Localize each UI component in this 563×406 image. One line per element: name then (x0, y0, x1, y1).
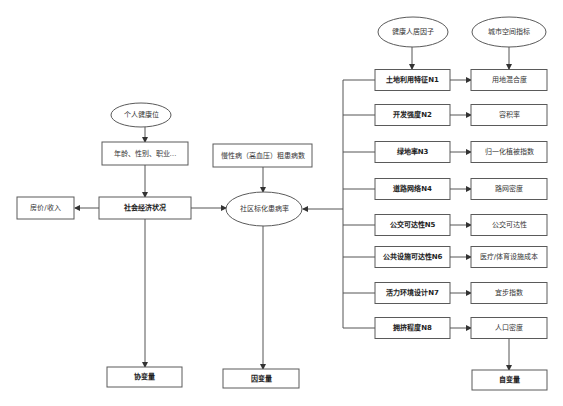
health-factor-label: 健康人居因子 (392, 27, 434, 36)
socioeconomic-node: 社会经济状况 (99, 197, 191, 219)
indicator-label-n6: 医疗/体育设施成本 (480, 252, 538, 261)
dependent-variable-label: 因变量 (251, 374, 272, 383)
indicator-label-n3: 归一化植被指数 (485, 147, 534, 156)
factor-row-n4: 道路网络N4路网密度 (343, 179, 547, 200)
indicator-label-n7: 宜步指数 (495, 288, 523, 297)
house-price-income-node: 房价/收入 (17, 197, 74, 219)
factor-rows: 土地利用特征N1用地混合度开发强度N2容积率绿地率N3归一化植被指数道路网络N4… (343, 70, 547, 339)
indicator-label-n1: 用地混合度 (492, 75, 527, 84)
house-price-income-label: 房价/收入 (30, 203, 60, 212)
indicator-label-n2: 容积率 (499, 110, 520, 119)
health-factor-header-node: 健康人居因子 (378, 17, 448, 47)
independent-variable-node: 自变量 (472, 370, 547, 390)
standardized-prevalence-node: 社区标化患病率 (226, 192, 302, 226)
factor-row-n6: 公共设施可达性N6医疗/体育设施成本 (343, 247, 547, 268)
covariate-label: 协变量 (134, 372, 155, 381)
factor-label-n3: 绿地率N3 (397, 147, 429, 156)
personal-health-label: 个人健康位 (124, 110, 159, 119)
socioeconomic-label: 社会经济状况 (123, 203, 166, 212)
factor-label-n2: 开发强度N2 (393, 110, 432, 119)
factor-label-n5: 公交可达性N5 (390, 220, 436, 229)
chronic-disease-node: 慢性病（高血压）粗患病数 (213, 144, 312, 167)
demographics-label: 年龄、性别、职业… (114, 149, 177, 158)
factor-label-n8: 拥挤程度N8 (393, 323, 432, 332)
factor-label-n6: 公共设施可达性N6 (383, 252, 443, 261)
factor-row-n3: 绿地率N3归一化植被指数 (343, 142, 547, 163)
standardized-prevalence-label: 社区标化患病率 (240, 204, 289, 213)
chronic-disease-label: 慢性病（高血压）粗患病数 (221, 151, 305, 160)
urban-index-label: 城市空间指标 (488, 27, 530, 36)
factor-row-n5: 公交可达性N5公交可达性 (343, 215, 547, 236)
factor-label-n1: 土地利用特征N1 (386, 75, 439, 84)
factor-label-n7: 活力环境设计N7 (386, 288, 439, 297)
factor-row-n2: 开发强度N2容积率 (343, 105, 547, 126)
indicator-label-n8: 人口密度 (495, 323, 523, 332)
independent-variable-label: 自变量 (499, 375, 520, 384)
personal-health-node: 个人健康位 (111, 103, 171, 127)
dependent-variable-node: 因变量 (223, 369, 299, 388)
indicator-label-n5: 公交可达性 (492, 220, 527, 229)
factor-label-n4: 道路网络N4 (393, 184, 432, 193)
demographics-node: 年龄、性别、职业… (102, 142, 188, 165)
factor-row-n1: 土地利用特征N1用地混合度 (343, 70, 547, 91)
factor-row-n8: 拥挤程度N8人口密度 (343, 318, 547, 339)
flowchart-diagram: 个人健康位 年龄、性别、职业… 社会经济状况 房价/收入 协变量 慢性病（高血压… (0, 0, 563, 406)
indicator-label-n4: 路网密度 (495, 184, 523, 193)
covariate-node: 协变量 (107, 367, 182, 387)
factor-row-n7: 活力环境设计N7宜步指数 (343, 283, 547, 304)
urban-index-header-node: 城市空间指标 (472, 17, 546, 47)
